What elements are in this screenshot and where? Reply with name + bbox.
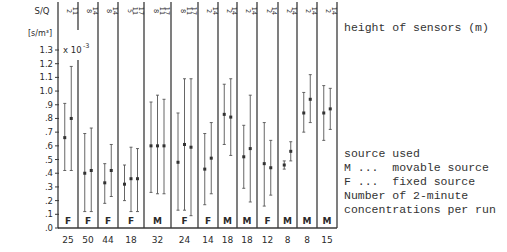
error-bar <box>150 102 153 192</box>
legend-source-fixed: F ... fixed source <box>344 175 475 189</box>
error-bar <box>190 79 193 216</box>
source-label: M <box>283 216 292 226</box>
source-label: M <box>223 216 232 226</box>
y-scale-note: x 10 <box>63 45 82 55</box>
y-tick-label: 1.3 <box>39 45 53 55</box>
run-count-label: 15 <box>321 235 332 245</box>
error-bar <box>136 149 139 212</box>
error-bar <box>283 161 286 169</box>
error-bar <box>229 79 232 156</box>
run-count-label: 8 <box>285 235 291 245</box>
y-tick-label: .5 <box>45 155 53 165</box>
y-tick-label: .1 <box>45 209 53 219</box>
error-bar <box>183 79 186 210</box>
sensor-height-label: 17 <box>190 7 198 15</box>
y-tick-label: .3 <box>45 182 53 192</box>
sensor-height-label: 14 <box>330 7 338 15</box>
error-bar <box>289 142 292 161</box>
legend-number-label-line2: concentrations per run <box>344 203 496 217</box>
source-label: F <box>85 216 91 226</box>
run-count-label: 32 <box>152 235 163 245</box>
error-bar <box>269 140 272 195</box>
legend-source-title: source used <box>344 147 420 161</box>
run-count-label: 25 <box>62 235 73 245</box>
run-count-label: 12 <box>262 235 273 245</box>
y-tick-label: .7 <box>45 127 53 137</box>
error-bar <box>309 75 312 123</box>
y-tick-label: 1.1 <box>39 72 53 82</box>
source-label: F <box>181 216 187 226</box>
source-label: M <box>323 216 332 226</box>
source-label: M <box>243 216 252 226</box>
y-axis-unit: [s/m³] <box>28 29 52 38</box>
error-bar <box>156 95 159 194</box>
sensor-height-label: 17 <box>163 7 171 15</box>
error-bar <box>90 128 93 212</box>
y-tick-label: .8 <box>45 113 53 123</box>
sensor-height-label: 14 <box>290 7 298 15</box>
y-axis-title: S/Q <box>35 6 50 16</box>
run-count-label: 8 <box>304 235 310 245</box>
error-bar <box>203 134 206 205</box>
sensor-height-label: 14 <box>91 7 99 15</box>
run-count-label: 18 <box>125 235 137 245</box>
sensor-height-label: 14 <box>250 7 258 15</box>
error-bar <box>223 84 226 144</box>
error-bar <box>177 113 180 210</box>
error-bar <box>130 147 133 211</box>
legend-number-label-line1: Number of 2-minute <box>344 189 468 203</box>
error-bar <box>70 66 73 170</box>
error-bar <box>83 134 86 212</box>
error-bar <box>329 88 332 129</box>
sensor-height-label: 14 <box>111 7 119 15</box>
run-count-label: 18 <box>241 235 253 245</box>
source-label: F <box>128 216 134 226</box>
y-tick-label: .2 <box>45 196 53 206</box>
legend-source-movable: M ... movable source <box>344 161 489 175</box>
error-bar <box>103 164 106 204</box>
sensor-height-label: 14 <box>270 7 278 15</box>
run-count-label: 18 <box>222 235 234 245</box>
source-label: M <box>153 216 162 226</box>
run-count-label: 50 <box>82 235 94 245</box>
source-label: F <box>264 216 270 226</box>
y-tick-label: .6 <box>45 141 53 151</box>
y-tick-label: 1.2 <box>39 59 53 69</box>
error-bar <box>249 95 252 202</box>
sensor-height-label: 14 <box>211 7 219 15</box>
y-tick-label: 1.0 <box>39 86 53 96</box>
error-bar <box>163 99 166 193</box>
error-bar <box>210 123 213 194</box>
error-bar <box>63 103 66 170</box>
source-label: M <box>303 216 312 226</box>
error-bar <box>263 123 266 207</box>
sensor-height-label: 14 <box>310 7 318 15</box>
error-bar <box>322 86 325 141</box>
y-tick-label: .9 <box>45 100 53 110</box>
source-label: F <box>105 216 111 226</box>
y-tick-label: .4 <box>45 168 53 178</box>
y-tick-label: .0 <box>45 223 53 233</box>
sensor-height-label: 17 <box>137 7 145 15</box>
error-bar <box>110 144 113 196</box>
run-count-label: 24 <box>179 235 191 245</box>
sensor-height-label: 14 <box>230 7 238 15</box>
source-label: F <box>205 216 211 226</box>
sensor-height-label: 11 <box>71 7 79 15</box>
error-bar <box>123 165 126 201</box>
legend-heights-label: height of sensors (m) <box>344 21 489 35</box>
svg-text:-3: -3 <box>83 42 89 50</box>
error-bar <box>242 125 245 188</box>
run-count-label: 14 <box>202 235 214 245</box>
source-label: F <box>65 216 71 226</box>
error-bar <box>302 92 305 132</box>
run-count-label: 44 <box>102 235 114 245</box>
